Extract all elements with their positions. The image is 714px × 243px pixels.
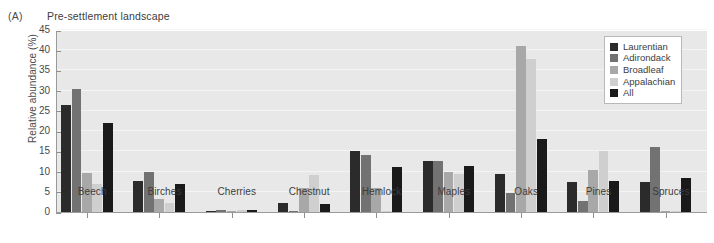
bar (671, 211, 681, 212)
panel-tag: (A) (8, 10, 23, 22)
y-tick-label: 30 (24, 85, 50, 96)
y-tick-label: 25 (24, 105, 50, 116)
y-tick-mark (56, 172, 61, 173)
bar-group (129, 31, 201, 212)
bar-group (202, 31, 274, 212)
x-tick-mark (87, 213, 88, 218)
y-tick-mark (56, 31, 61, 32)
x-tick-mark (521, 213, 522, 218)
y-tick-mark (56, 111, 61, 112)
y-tick-mark (56, 51, 61, 52)
y-tick-label: 15 (24, 145, 50, 156)
bar (237, 210, 247, 212)
legend-item: Adirondack (610, 53, 675, 65)
legend-swatch-icon (610, 78, 618, 86)
legend: LaurentianAdirondackBroadleafAppalachian… (604, 36, 682, 104)
x-tick-label: Birches (128, 186, 200, 197)
bar-group (491, 31, 563, 212)
y-tick-label: 5 (24, 186, 50, 197)
legend-label: Adirondack (623, 53, 671, 63)
x-tick-label: Spruces (635, 186, 707, 197)
bar (227, 211, 237, 212)
bar (154, 199, 164, 212)
y-tick-label: 0 (24, 206, 50, 217)
bar (537, 139, 547, 212)
bar (650, 147, 660, 212)
legend-item: Broadleaf (610, 64, 675, 76)
bar (165, 203, 175, 212)
bar (350, 151, 360, 212)
bar (103, 123, 113, 212)
bar-group (346, 31, 418, 212)
x-tick-label: Chestnut (273, 186, 345, 197)
legend-label: Laurentian (623, 42, 668, 52)
legend-swatch-icon (610, 66, 618, 74)
x-tick-label: Pines (562, 186, 634, 197)
y-tick-label: 45 (24, 24, 50, 35)
y-tick-label: 10 (24, 166, 50, 177)
bar (206, 211, 216, 212)
x-tick-label: Beech (56, 186, 128, 197)
x-tick-mark (376, 213, 377, 218)
x-tick-mark (232, 213, 233, 218)
bar (216, 210, 226, 212)
bar (661, 211, 671, 212)
x-tick-mark (593, 213, 594, 218)
bar-group (274, 31, 346, 212)
legend-label: All (623, 88, 634, 98)
y-tick-mark (56, 213, 61, 214)
x-tick-mark (666, 213, 667, 218)
y-tick-label: 40 (24, 44, 50, 55)
bar (247, 210, 257, 212)
legend-label: Broadleaf (623, 65, 664, 75)
bar (361, 155, 371, 212)
legend-swatch-icon (610, 54, 618, 62)
legend-swatch-icon (610, 89, 618, 97)
bar (578, 201, 588, 212)
legend-item: All (610, 87, 675, 99)
panel-title: Pre-settlement landscape (47, 10, 170, 22)
gridline (57, 29, 707, 30)
bar (320, 204, 330, 212)
legend-item: Appalachian (610, 76, 675, 88)
x-tick-label: Hemlock (345, 186, 417, 197)
x-tick-mark (304, 213, 305, 218)
x-tick-mark (449, 213, 450, 218)
bar (289, 211, 299, 212)
y-tick-mark (56, 91, 61, 92)
bar (599, 151, 609, 212)
y-tick-mark (56, 132, 61, 133)
x-tick-mark (159, 213, 160, 218)
bar (382, 211, 392, 212)
y-tick-label: 35 (24, 64, 50, 75)
y-tick-mark (56, 152, 61, 153)
legend-item: Laurentian (610, 41, 675, 53)
bar (278, 203, 288, 212)
y-tick-label: 20 (24, 125, 50, 136)
bar-group (419, 31, 491, 212)
x-tick-label: Oaks (490, 186, 562, 197)
x-tick-label: Maples (418, 186, 490, 197)
legend-label: Appalachian (623, 77, 675, 87)
figure-panel-a: (A) Pre-settlement landscape Relative ab… (0, 0, 714, 243)
legend-swatch-icon (610, 43, 618, 51)
x-tick-label: Cherries (201, 186, 273, 197)
bar-group (57, 31, 129, 212)
y-tick-mark (56, 71, 61, 72)
